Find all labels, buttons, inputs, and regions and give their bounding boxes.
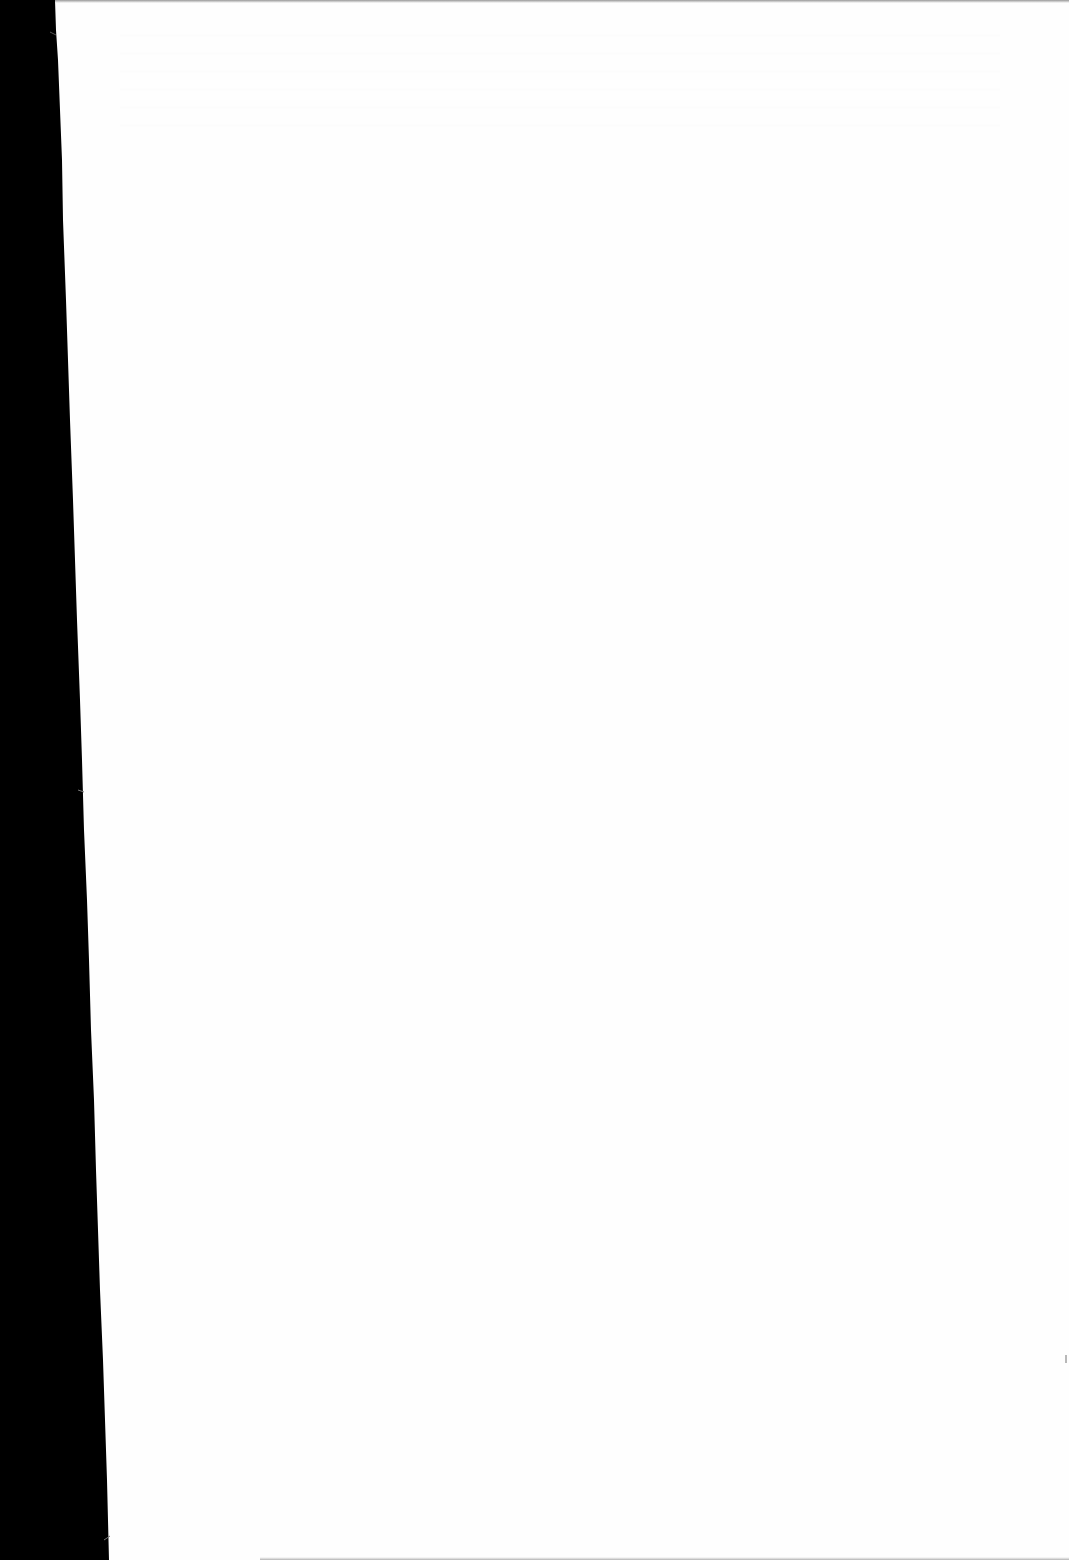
page-top-edge <box>55 0 1069 3</box>
scanned-page <box>0 0 1069 1560</box>
scanner-bed-shadow <box>0 0 1069 1560</box>
right-edge-mark <box>1065 1355 1067 1363</box>
